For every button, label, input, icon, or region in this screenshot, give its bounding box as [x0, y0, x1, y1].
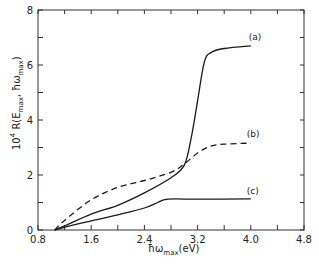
series-line-a — [55, 46, 251, 230]
chart: 0.81.62.43.24.04.8 02468 (a)(b)(c) ħωmax… — [0, 0, 319, 265]
series-labels: (a)(b)(c) — [247, 32, 262, 196]
y-tick-label: 4 — [27, 115, 33, 126]
y-tick-label: 0 — [27, 225, 33, 236]
x-axis: 0.81.62.43.24.04.8 — [30, 10, 312, 245]
series-label-a: (a) — [249, 32, 262, 42]
plot-frame — [38, 10, 304, 230]
y-tick-label: 2 — [27, 170, 33, 181]
y-tick-label: 8 — [27, 5, 33, 16]
y-axis-title: 104 R(Emax, ħωmax) — [9, 56, 25, 150]
x-tick-label: 1.6 — [83, 234, 99, 245]
series-lines — [55, 46, 251, 230]
y-axis: 02468 — [27, 5, 304, 236]
plot-border — [38, 10, 304, 230]
y-tick-label: 6 — [27, 60, 33, 71]
x-tick-label: 4.0 — [243, 234, 259, 245]
series-line-c — [55, 199, 251, 230]
series-label-b: (b) — [247, 129, 260, 139]
x-axis-title: ħωmax(eV) — [148, 243, 199, 257]
series-label-c: (c) — [247, 186, 259, 196]
x-tick-label: 4.8 — [296, 234, 312, 245]
